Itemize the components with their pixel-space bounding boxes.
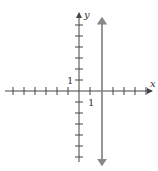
y-unit-label: 1 (67, 75, 73, 86)
y-axis (75, 13, 83, 162)
x-unit-label: 1 (88, 97, 94, 108)
x-axis-label: x (150, 78, 156, 89)
y-axis-label: y (83, 9, 90, 20)
coordinate-plane: x y 1 1 (0, 0, 158, 171)
